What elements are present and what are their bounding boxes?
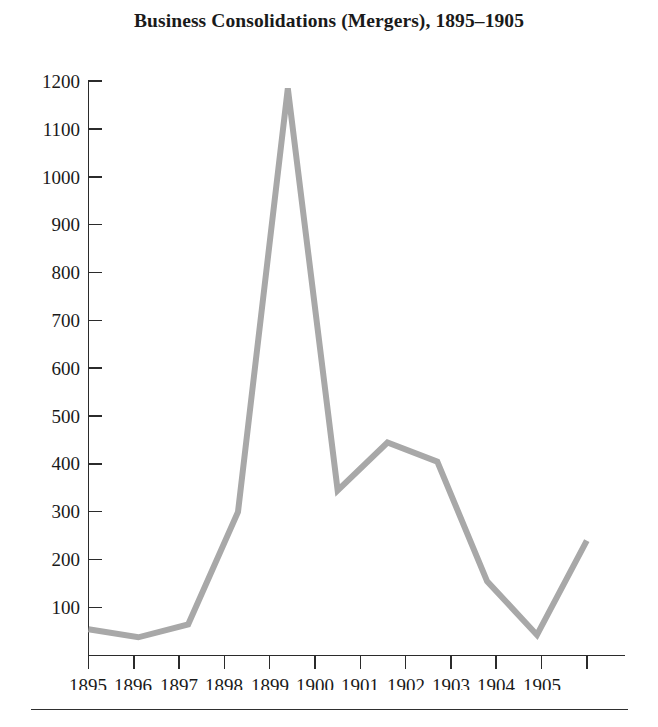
y-tick-label: 200 [52, 549, 81, 570]
x-tick-label: 1895 [69, 675, 107, 690]
y-tick-label: 900 [52, 214, 81, 235]
x-tick-label: 1898 [205, 675, 243, 690]
x-tick-label: 1904 [477, 675, 516, 690]
plot-area: 100 200 300 400 500 600 700 800 900 1000… [0, 0, 658, 690]
x-tick-marks [89, 656, 587, 670]
y-tick-label: 600 [52, 358, 81, 379]
y-tick-label: 700 [52, 310, 81, 331]
line-chart-svg: 100 200 300 400 500 600 700 800 900 1000… [0, 0, 658, 690]
x-tick-label: 1897 [160, 675, 198, 690]
y-tick-marks [89, 81, 103, 607]
x-tick-label: 1896 [114, 675, 152, 690]
y-tick-label: 1000 [42, 167, 80, 188]
x-tick-label: 1903 [432, 675, 470, 690]
data-series-line [89, 88, 587, 637]
y-tick-labels: 100 200 300 400 500 600 700 800 900 1000… [42, 71, 80, 618]
footer-rule [31, 709, 628, 710]
y-tick-label: 800 [52, 262, 81, 283]
y-tick-label: 300 [52, 501, 81, 522]
x-tick-label: 1902 [387, 675, 425, 690]
y-tick-label: 1100 [43, 119, 80, 140]
x-tick-label: 1901 [341, 675, 379, 690]
x-tick-label: 1899 [251, 675, 289, 690]
y-tick-label: 1200 [42, 71, 80, 92]
x-tick-labels: 1895 1896 1897 1898 1899 1900 1901 1902 … [69, 675, 561, 690]
y-tick-label: 100 [52, 597, 81, 618]
x-tick-label: 1905 [523, 675, 561, 690]
y-tick-label: 400 [52, 453, 81, 474]
x-tick-label: 1900 [296, 675, 334, 690]
y-tick-label: 500 [52, 406, 81, 427]
chart-figure: Business Consolidations (Mergers), 1895–… [0, 0, 658, 727]
